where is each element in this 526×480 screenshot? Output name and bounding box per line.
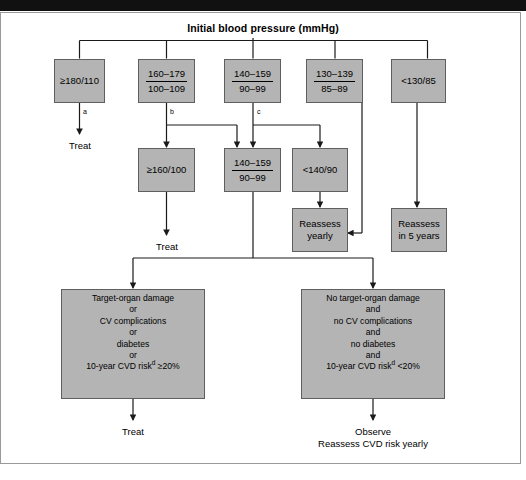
- high-risk-line-6: or: [129, 350, 137, 361]
- low-risk-line-1: No target-organ damage: [326, 293, 420, 304]
- node-reassess-yearly-line2: yearly: [307, 230, 332, 242]
- high-risk-line-4: or: [129, 327, 137, 338]
- branch-letter-b: b: [170, 108, 174, 116]
- node-bp-140-159-90-99-row2[interactable]: 140–159 90–99: [224, 148, 281, 192]
- node-bp-ge-160-100-label: ≥160/100: [147, 164, 187, 176]
- node-bp-lt-130-85[interactable]: <130/85: [391, 59, 446, 103]
- node-bp-90-99-denominator-row1: 90–99: [237, 82, 267, 95]
- high-risk-line-5: diabetes: [117, 339, 150, 350]
- low-risk-line-2: and: [366, 304, 380, 315]
- node-bp-ge-160-100[interactable]: ≥160/100: [138, 148, 195, 192]
- label-treat-middle: Treat: [141, 241, 193, 253]
- branch-letter-c: c: [257, 108, 261, 116]
- page-title: Initial blood pressure (mmHg): [0, 22, 526, 34]
- high-risk-line-3: CV complications: [100, 316, 166, 327]
- label-observe: Observe: [293, 426, 453, 438]
- label-treat-bottom: Treat: [107, 426, 159, 438]
- label-reassess-cvd-risk-yearly: Reassess CVD risk yearly: [293, 438, 453, 450]
- node-bp-140-159-90-99-row1[interactable]: 140–159 90–99: [224, 59, 281, 103]
- low-risk-line-5: no diabetes: [351, 339, 395, 350]
- node-bp-140-159-numerator-row1: 140–159: [232, 68, 273, 82]
- node-bp-130-139-85-89[interactable]: 130–139 85–89: [306, 59, 363, 103]
- label-treat-left: Treat: [54, 140, 106, 152]
- node-reassess-5-years-line2: in 5 years: [398, 230, 439, 242]
- low-risk-cvd-line: 10-year CVD riskd <20%: [326, 361, 420, 372]
- node-bp-85-89-denominator: 85–89: [319, 82, 349, 95]
- flowchart-page: Initial blood pressure (mmHg): [0, 0, 526, 480]
- branch-letter-a: a: [83, 108, 87, 116]
- node-bp-lt-140-90-label: <140/90: [303, 164, 338, 176]
- node-bp-130-139-numerator: 130–139: [314, 68, 355, 82]
- node-bp-90-99-denominator-row2: 90–99: [237, 171, 267, 184]
- low-risk-line-3: no CV complications: [334, 316, 412, 327]
- node-bp-160-179-numerator: 160–179: [146, 68, 187, 82]
- node-bp-ge-180-110[interactable]: ≥180/110: [54, 59, 105, 103]
- low-risk-line-6: and: [366, 350, 380, 361]
- node-low-risk-criteria[interactable]: No target-organ damage and no CV complic…: [301, 289, 445, 399]
- node-reassess-yearly-line1: Reassess: [299, 218, 341, 230]
- node-bp-100-109-denominator: 100–109: [146, 82, 187, 95]
- high-risk-line-2: or: [129, 304, 137, 315]
- low-risk-line-4: and: [366, 327, 380, 338]
- high-risk-cvd-pre: 10-year CVD risk: [86, 361, 151, 371]
- node-bp-lt-130-85-label: <130/85: [401, 75, 436, 87]
- node-bp-140-159-numerator-row2: 140–159: [232, 157, 273, 171]
- low-risk-cvd-pre: 10-year CVD risk: [326, 361, 391, 371]
- low-risk-cvd-post: <20%: [395, 361, 420, 371]
- high-risk-cvd-post: ≥20%: [155, 361, 179, 371]
- node-bp-160-179-100-109[interactable]: 160–179 100–109: [138, 59, 195, 103]
- high-risk-line-1: Target-organ damage: [92, 293, 174, 304]
- node-reassess-yearly[interactable]: Reassess yearly: [292, 208, 348, 252]
- node-reassess-5-years[interactable]: Reassess in 5 years: [391, 208, 447, 252]
- high-risk-cvd-line: 10-year CVD riskd ≥20%: [86, 361, 179, 372]
- node-bp-lt-140-90[interactable]: <140/90: [292, 148, 348, 192]
- page-top-black-bar: [0, 0, 526, 11]
- node-reassess-5-years-line1: Reassess: [398, 218, 440, 230]
- node-bp-ge-180-110-label: ≥180/110: [60, 75, 99, 87]
- node-high-risk-criteria[interactable]: Target-organ damage or CV complications …: [61, 289, 205, 399]
